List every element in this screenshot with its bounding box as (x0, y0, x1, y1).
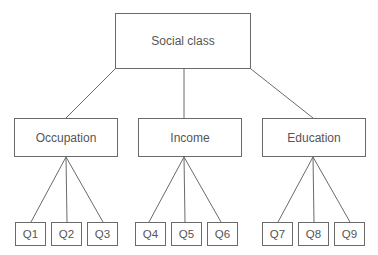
node-label: Q1 (23, 228, 38, 240)
node-label: Q5 (179, 228, 194, 240)
node-q9: Q9 (334, 222, 365, 246)
node-label: Q4 (143, 228, 158, 240)
node-q7: Q7 (262, 222, 293, 246)
node-label: Education (287, 131, 340, 145)
node-education: Education (262, 118, 366, 157)
node-label: Q8 (306, 228, 321, 240)
node-q8: Q8 (298, 222, 329, 246)
node-label: Social class (151, 34, 214, 48)
node-q1: Q1 (15, 222, 46, 246)
node-q3: Q3 (87, 222, 118, 246)
node-label: Q2 (59, 228, 74, 240)
node-income: Income (138, 118, 242, 157)
node-social-class: Social class (115, 13, 251, 69)
node-q4: Q4 (135, 222, 166, 246)
node-label: Q6 (215, 228, 230, 240)
node-q2: Q2 (51, 222, 82, 246)
node-label: Income (170, 131, 209, 145)
node-label: Occupation (36, 131, 97, 145)
node-occupation: Occupation (14, 118, 118, 157)
node-label: Q9 (342, 228, 357, 240)
node-q5: Q5 (171, 222, 202, 246)
node-label: Q3 (95, 228, 110, 240)
node-q6: Q6 (207, 222, 238, 246)
node-label: Q7 (270, 228, 285, 240)
